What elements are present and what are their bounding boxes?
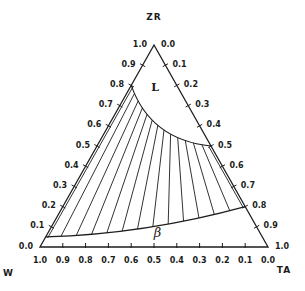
left-axis-tick-label: 0.3 xyxy=(53,181,67,190)
beta-solvus-boundary-curve xyxy=(46,207,246,237)
bottom-axis-tick-label: 0.5 xyxy=(147,256,162,265)
right-axis-tick-label: 0.7 xyxy=(241,181,255,190)
left-axis-tick-label: 0.8 xyxy=(110,80,125,89)
left-axis-tick-label: 0.2 xyxy=(42,201,56,210)
left-axis-tick-label: 0.9 xyxy=(121,60,136,69)
tie-line xyxy=(209,147,243,208)
bottom-axis-tick-label: 0.7 xyxy=(101,256,115,265)
left-axis-tick-label: 0.7 xyxy=(99,100,113,109)
left-axis-tick-label: 0.6 xyxy=(87,120,102,129)
right-axis-tick-label: 1.0 xyxy=(275,242,290,251)
left-axis-tick-label: 1.0 xyxy=(133,40,148,49)
right-axis-tick-label: 0.6 xyxy=(229,161,244,170)
bottom-axis-tick-label: 0.6 xyxy=(124,256,139,265)
bottom-axis-tick-label: 0.2 xyxy=(215,256,229,265)
bottom-axis-tick-label: 0.4 xyxy=(170,256,185,265)
tie-line xyxy=(185,141,199,218)
right-axis-tick-label: 0.4 xyxy=(207,120,222,129)
right-axis-tick-label: 0.1 xyxy=(172,60,187,69)
tie-line xyxy=(178,138,184,221)
liquidus-boundary-curve xyxy=(131,85,211,146)
left-axis-tick-label: 0.4 xyxy=(64,161,79,170)
right-axis-tick-label: 0.5 xyxy=(218,141,233,150)
ta-vertex-label: TA xyxy=(277,265,291,275)
tie-line xyxy=(168,134,170,224)
liquid-region-label: L xyxy=(151,81,159,94)
bottom-axis-tick-label: 0.8 xyxy=(79,256,94,265)
right-axis-tick-label: 0.0 xyxy=(161,40,176,49)
right-axis-tick-label: 0.8 xyxy=(252,201,267,210)
ternary-diagram-canvas: 0.00.00.00.10.10.10.20.20.20.30.30.30.40… xyxy=(0,0,305,291)
ternary-phase-diagram-figure: 0.00.00.00.10.10.10.20.20.20.30.30.30.40… xyxy=(0,0,305,291)
bottom-axis-tick-label: 0.9 xyxy=(56,256,71,265)
bottom-axis-tick-label: 0.1 xyxy=(238,256,253,265)
left-axis-tick-label: 0.5 xyxy=(76,141,91,150)
zr-vertex-label: ZR xyxy=(146,12,161,22)
bottom-axis-tick-label: 0.3 xyxy=(193,256,207,265)
left-axis-tick-label: 0.0 xyxy=(19,242,34,251)
right-axis-tick-label: 0.2 xyxy=(184,80,198,89)
beta-region-label: β xyxy=(153,225,162,240)
bottom-axis-tick-label: 1.0 xyxy=(33,256,48,265)
bottom-axis-tick-label: 0.0 xyxy=(261,256,276,265)
right-axis-tick-label: 0.9 xyxy=(264,221,279,230)
left-axis-tick-label: 0.1 xyxy=(30,221,45,230)
right-axis-tick-label: 0.3 xyxy=(195,100,209,109)
w-vertex-label: W xyxy=(3,268,14,278)
